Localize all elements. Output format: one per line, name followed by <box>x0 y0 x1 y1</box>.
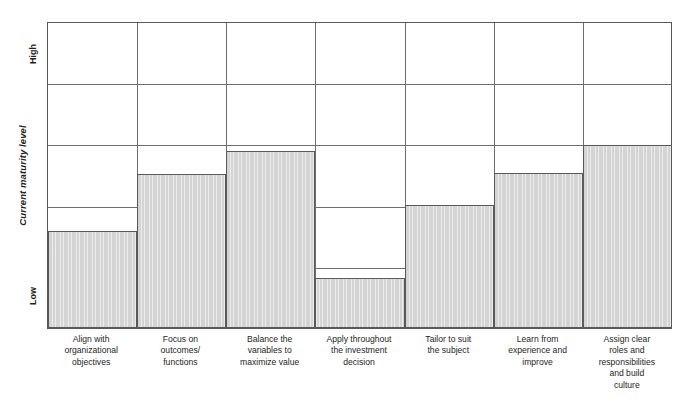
x-tick-label: Apply throughoutthe investmentdecision <box>314 334 403 368</box>
x-tick-label-line: variables to <box>225 345 314 356</box>
plot-area <box>47 22 672 329</box>
x-tick-label-line: Learn from <box>493 334 582 345</box>
x-tick-label-line: the subject <box>404 345 493 356</box>
horizontal-gridline <box>48 145 671 146</box>
x-tick-label-line: Align with <box>47 334 136 345</box>
x-tick-label-line: maximize value <box>225 357 314 368</box>
x-tick-label-line: outcomes/ <box>136 345 225 356</box>
horizontal-gridline <box>48 84 671 85</box>
x-tick-label-line: the investment <box>314 345 403 356</box>
x-tick-label: Tailor to suitthe subject <box>404 334 493 357</box>
bar <box>315 278 404 328</box>
maturity-bar-chart: Current maturity level High Low Align wi… <box>0 0 695 402</box>
x-tick-label-line: roles and <box>582 345 671 356</box>
bar <box>137 174 226 328</box>
x-tick-label-line: culture <box>582 380 671 391</box>
x-tick-label-line: decision <box>314 357 403 368</box>
y-tick-label-low: Low <box>26 265 40 327</box>
bar <box>48 231 137 328</box>
x-tick-label-line: organizational <box>47 345 136 356</box>
x-tick-label: Align withorganizationalobjectives <box>47 334 136 368</box>
bar <box>494 173 583 327</box>
x-tick-label-line: functions <box>136 357 225 368</box>
x-tick-label-line: Apply throughout <box>314 334 403 345</box>
bar <box>583 145 672 328</box>
bar <box>226 151 315 328</box>
x-tick-label-line: Balance the <box>225 334 314 345</box>
y-tick-label-high: High <box>26 23 40 85</box>
x-tick-label-line: experience and <box>493 345 582 356</box>
x-tick-label-line: responsibilities <box>582 357 671 368</box>
x-tick-label-line: Assign clear <box>582 334 671 345</box>
x-tick-label: Focus onoutcomes/functions <box>136 334 225 368</box>
bar <box>405 205 494 328</box>
x-tick-label-line: and build <box>582 368 671 379</box>
x-tick-label: Balance thevariables tomaximize value <box>225 334 314 368</box>
x-tick-label-line: improve <box>493 357 582 368</box>
x-tick-label-line: Focus on <box>136 334 225 345</box>
x-tick-label-line: Tailor to suit <box>404 334 493 345</box>
x-tick-label: Learn fromexperience andimprove <box>493 334 582 368</box>
x-tick-label: Assign clearroles andresponsibilitiesand… <box>582 334 671 391</box>
x-tick-label-line: objectives <box>47 357 136 368</box>
